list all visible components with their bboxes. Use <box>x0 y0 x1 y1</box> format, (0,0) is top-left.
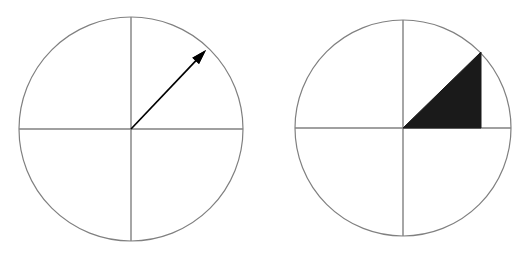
figure-canvas <box>0 0 530 254</box>
terminal-side-ray-shaft <box>131 58 199 129</box>
reference-triangle-circle-panel <box>295 20 511 236</box>
reference-triangle-shape <box>403 52 481 128</box>
terminal-ray-circle-panel <box>19 17 243 241</box>
terminal-side-arrow <box>131 50 206 129</box>
angle-diagram-figure <box>0 0 530 254</box>
